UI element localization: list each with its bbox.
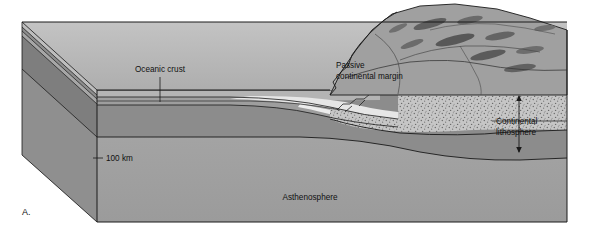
oceanic-crust-label: Oceanic crust (135, 65, 186, 74)
depth-scale-label: 100 km (106, 154, 133, 163)
continental-lithosphere-label-line2: lithosphere (496, 128, 537, 137)
block-diagram-svg: Oceanic crust Passive continental margin… (0, 0, 591, 238)
panel-label: A. (22, 207, 31, 217)
passive-margin-label-line1: Passive (336, 61, 365, 70)
passive-margin-label-line2: continental margin (336, 72, 403, 81)
front-cross-section (97, 90, 567, 222)
continental-terrain (330, 4, 567, 95)
continental-lithosphere-label-line1: Continental (496, 117, 538, 126)
asthenosphere-label: Asthenosphere (282, 193, 338, 202)
figure-panel: Oceanic crust Passive continental margin… (0, 0, 591, 238)
